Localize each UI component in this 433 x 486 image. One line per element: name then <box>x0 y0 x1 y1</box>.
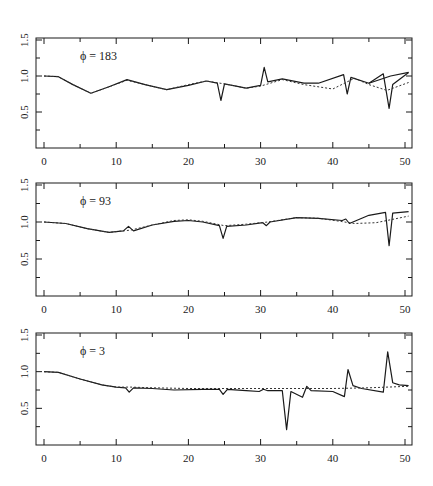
x-tick-label: 10 <box>111 452 123 464</box>
x-tick-label: 20 <box>183 303 195 315</box>
x-tick-label: 50 <box>400 452 412 464</box>
series-solid <box>44 212 409 246</box>
y-tick-label: 1.5 <box>18 33 30 47</box>
y-tick-label: 1.0 <box>18 69 30 83</box>
chart-figure: 010203040500.51.01.5ϕ = 183010203040500.… <box>0 0 433 486</box>
x-tick-label: 50 <box>400 303 412 315</box>
panel-1: 010203040500.51.01.5ϕ = 183 <box>18 33 412 167</box>
panel-2: 010203040500.51.01.5ϕ = 93 <box>18 178 412 315</box>
series-solid-branch <box>369 72 409 83</box>
x-tick-label: 30 <box>255 452 267 464</box>
x-tick-label: 20 <box>183 155 195 167</box>
x-tick-label: 0 <box>41 452 47 464</box>
phi-annotation: ϕ = 183 <box>80 49 117 63</box>
panel-3: 010203040500.51.01.5ϕ = 3 <box>18 328 412 464</box>
y-tick-label: 0.5 <box>18 252 30 266</box>
x-tick-label: 20 <box>183 452 195 464</box>
series-dotted <box>44 216 409 232</box>
x-tick-label: 40 <box>327 155 339 167</box>
x-tick-label: 10 <box>111 155 123 167</box>
x-tick-label: 30 <box>255 303 267 315</box>
x-tick-label: 0 <box>41 303 47 315</box>
x-tick-label: 50 <box>400 155 412 167</box>
y-tick-label: 0.5 <box>18 401 30 415</box>
y-tick-label: 1.0 <box>18 364 30 378</box>
x-tick-label: 10 <box>111 303 123 315</box>
y-tick-label: 1.5 <box>18 328 30 342</box>
y-tick-label: 0.5 <box>18 105 30 119</box>
y-tick-label: 1.0 <box>18 215 30 229</box>
x-tick-label: 30 <box>255 155 267 167</box>
series-solid <box>44 352 409 430</box>
series-solid <box>44 67 409 108</box>
x-tick-label: 0 <box>41 155 47 167</box>
phi-annotation: ϕ = 93 <box>80 194 111 208</box>
x-tick-label: 40 <box>327 452 339 464</box>
phi-annotation: ϕ = 3 <box>80 344 105 358</box>
x-tick-label: 40 <box>327 303 339 315</box>
y-tick-label: 1.5 <box>18 178 30 192</box>
